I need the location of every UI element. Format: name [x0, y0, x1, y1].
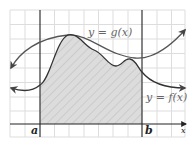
label-a: a [31, 124, 38, 137]
area-diagram: y = g(x) y = f(x) a b x [0, 0, 195, 145]
label-f: y = f(x) [145, 91, 187, 104]
label-x-axis: x [181, 126, 186, 135]
label-g: y = g(x) [87, 26, 132, 39]
label-b: b [145, 124, 153, 137]
